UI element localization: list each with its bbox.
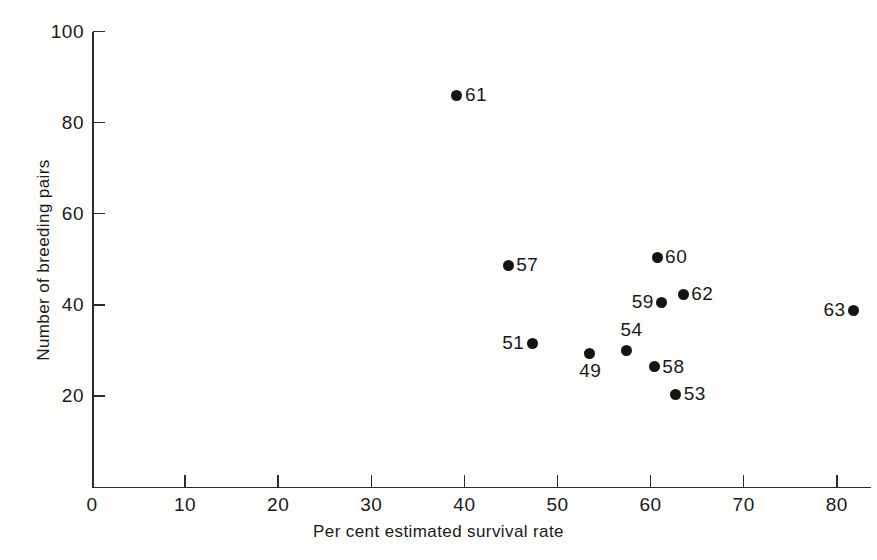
y-axis-tick bbox=[93, 395, 105, 397]
data-point-marker bbox=[678, 289, 689, 300]
data-point-marker bbox=[621, 345, 632, 356]
data-point-label: 58 bbox=[662, 356, 684, 378]
data-point-label: 53 bbox=[684, 383, 706, 405]
x-axis-tick bbox=[836, 475, 838, 487]
data-point-label: 57 bbox=[516, 254, 538, 276]
y-axis-tick bbox=[93, 122, 105, 124]
x-axis-tick-label: 60 bbox=[640, 494, 662, 516]
x-axis-tick bbox=[277, 475, 279, 487]
data-point-marker bbox=[503, 260, 514, 271]
data-point-label: 54 bbox=[620, 319, 642, 341]
data-point-marker bbox=[451, 90, 462, 101]
x-axis-tick bbox=[464, 475, 466, 487]
data-point-label: 62 bbox=[691, 283, 713, 305]
y-axis-title: Number of breeding pairs bbox=[34, 110, 54, 410]
x-axis-tick bbox=[371, 475, 373, 487]
data-point-label: 49 bbox=[579, 360, 601, 382]
data-point-marker bbox=[656, 297, 667, 308]
x-axis-tick-label: 0 bbox=[86, 494, 97, 516]
data-point-label: 60 bbox=[665, 246, 687, 268]
y-axis-tick bbox=[93, 213, 105, 215]
data-point-label: 61 bbox=[465, 84, 487, 106]
data-point-label: 59 bbox=[632, 291, 654, 313]
x-axis-tick-label: 50 bbox=[546, 494, 568, 516]
x-axis-tick-label: 70 bbox=[733, 494, 755, 516]
x-axis-tick-label: 80 bbox=[826, 494, 848, 516]
y-axis-tick bbox=[93, 304, 105, 306]
x-axis-tick-label: 30 bbox=[360, 494, 382, 516]
scatter-chart-figure: 20406080100 01020304050607080 6157605962… bbox=[0, 0, 877, 560]
y-axis-tick bbox=[93, 31, 105, 33]
data-point-marker bbox=[652, 252, 663, 263]
x-axis-tick-label: 20 bbox=[267, 494, 289, 516]
x-axis-tick bbox=[650, 475, 652, 487]
data-point-marker bbox=[527, 338, 538, 349]
y-axis-tick-label: 100 bbox=[22, 21, 84, 43]
x-axis-line bbox=[92, 487, 871, 489]
x-axis-tick-label: 40 bbox=[453, 494, 475, 516]
x-axis-tick bbox=[743, 475, 745, 487]
data-point-marker bbox=[649, 361, 660, 372]
data-point-marker bbox=[584, 348, 595, 359]
y-axis-line bbox=[92, 32, 94, 488]
data-point-marker bbox=[848, 305, 859, 316]
x-axis-tick bbox=[184, 475, 186, 487]
x-axis-tick-label: 10 bbox=[174, 494, 196, 516]
data-point-marker bbox=[670, 389, 681, 400]
x-axis-title: Per cent estimated survival rate bbox=[0, 522, 877, 542]
data-point-label: 51 bbox=[502, 332, 524, 354]
data-point-label: 63 bbox=[823, 299, 845, 321]
x-axis-tick bbox=[557, 475, 559, 487]
